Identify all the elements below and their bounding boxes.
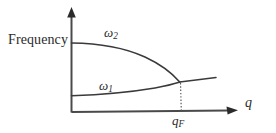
figure-canvas: Frequency ω2 ω1 qF q [0,0,276,133]
curve-label-omega2: ω2 [104,26,118,41]
x-axis-line [72,111,229,112]
curve-omega1 [72,82,181,96]
curve-omega2 [72,43,180,82]
omega2-base: ω [104,25,113,40]
curve-merged-branch [180,78,216,82]
qf-subscript: F [179,119,185,129]
y-axis-arrow-icon [67,7,76,18]
qf-guide-line [181,83,182,111]
qf-tick-label: qF [172,114,184,129]
omega1-base: ω [99,78,108,93]
curve-label-omega1: ω1 [99,79,113,94]
omega1-subscript: 1 [108,84,113,94]
x-axis-label: q [245,96,252,110]
x-axis-arrow-icon [227,106,239,114]
dispersion-diagram [0,0,276,133]
omega2-subscript: 2 [113,31,118,41]
y-axis-label: Frequency [8,33,68,47]
